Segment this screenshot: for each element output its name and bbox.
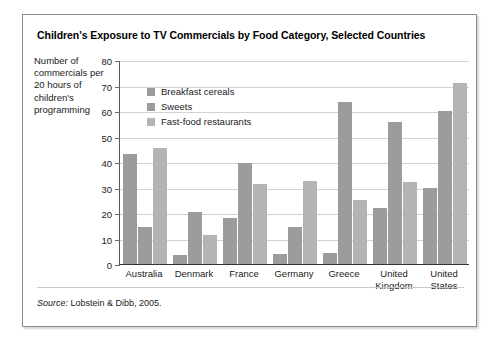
bar bbox=[273, 254, 287, 264]
source-text: Lobstein & Dibb, 2005. bbox=[68, 298, 162, 308]
x-tick-label: Australia bbox=[119, 268, 169, 280]
bar bbox=[403, 182, 417, 264]
bar bbox=[388, 122, 402, 264]
chart-legend: Breakfast cerealsSweetsFast-food restaur… bbox=[147, 84, 251, 129]
legend-label: Breakfast cereals bbox=[161, 86, 234, 97]
bar bbox=[453, 83, 467, 264]
y-tick-label: 80 bbox=[101, 56, 112, 67]
bar-group bbox=[270, 61, 320, 264]
bar bbox=[223, 218, 237, 264]
bar bbox=[188, 212, 202, 264]
x-tick-label: Greece bbox=[319, 268, 369, 280]
bar bbox=[438, 111, 452, 264]
bar bbox=[203, 235, 217, 264]
y-tick-label: 0 bbox=[107, 260, 112, 271]
y-tick-label: 10 bbox=[101, 234, 112, 245]
y-tick-mark bbox=[115, 265, 120, 266]
y-tick-label: 60 bbox=[101, 107, 112, 118]
divider bbox=[37, 287, 464, 288]
bar-group bbox=[320, 61, 370, 264]
bar-group bbox=[370, 61, 420, 264]
legend-item: Fast-food restaurants bbox=[147, 114, 251, 129]
page-title: Children's Exposure to TV Commercials by… bbox=[37, 29, 425, 41]
legend-label: Sweets bbox=[161, 101, 192, 112]
bar-group bbox=[420, 61, 470, 264]
y-tick-label: 70 bbox=[101, 81, 112, 92]
x-tick-label: France bbox=[219, 268, 269, 280]
legend-item: Sweets bbox=[147, 99, 251, 114]
legend-swatch-icon bbox=[147, 118, 155, 126]
legend-swatch-icon bbox=[147, 103, 155, 111]
bar bbox=[253, 184, 267, 264]
bar bbox=[288, 227, 302, 264]
bar bbox=[123, 154, 137, 264]
source-note: Source: Lobstein & Dibb, 2005. bbox=[37, 298, 162, 308]
legend-item: Breakfast cereals bbox=[147, 84, 251, 99]
bar bbox=[153, 148, 167, 264]
y-tick-label: 30 bbox=[101, 183, 112, 194]
y-axis-label: Number of commercials per 20 hours of ch… bbox=[34, 55, 112, 116]
bar bbox=[338, 102, 352, 264]
source-label: Source: bbox=[37, 298, 68, 308]
bar bbox=[323, 253, 337, 264]
legend-swatch-icon bbox=[147, 88, 155, 96]
y-tick-label: 40 bbox=[101, 158, 112, 169]
y-tick-label: 50 bbox=[101, 132, 112, 143]
x-tick-label: Germany bbox=[269, 268, 319, 280]
bar bbox=[373, 208, 387, 264]
bar bbox=[303, 181, 317, 264]
x-tick-label: Denmark bbox=[169, 268, 219, 280]
bar bbox=[423, 188, 437, 265]
bar bbox=[173, 255, 187, 264]
legend-label: Fast-food restaurants bbox=[161, 116, 251, 127]
figure-frame: Children's Exposure to TV Commercials by… bbox=[22, 14, 477, 327]
bar bbox=[238, 163, 252, 264]
y-tick-label: 20 bbox=[101, 209, 112, 220]
bar bbox=[138, 227, 152, 264]
bar bbox=[353, 200, 367, 264]
